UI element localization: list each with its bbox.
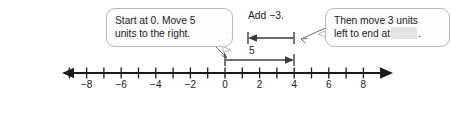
arrow-add-negative-three: [248, 32, 294, 44]
answer-blank-callout[interactable]: [391, 27, 417, 39]
number-line-worked-example: Start at 0. Move 5 units to the right. T…: [0, 0, 451, 133]
callout-end-instruction: Then move 3 units left to end at.: [325, 8, 450, 47]
callout-start-tail: [215, 46, 231, 58]
label-jump-length-five: 5: [249, 45, 255, 57]
axis-tick-label: 0: [222, 79, 228, 91]
axis-tick-label: −6: [115, 79, 126, 91]
callout-start-line1: Start at 0. Move 5: [115, 14, 225, 27]
arrow-move-right-five: [225, 54, 294, 66]
conclusion-row: So, 5 + (−3) =.: [0, 101, 451, 133]
callout-start-line2: units to the right.: [115, 27, 225, 40]
label-add-negative-three: Add −3.: [248, 10, 284, 22]
axis-tick-label: −4: [150, 79, 161, 91]
axis-tick-label: 6: [326, 79, 332, 91]
axis-tick-label: 2: [257, 79, 263, 91]
callout-end-suffix: .: [418, 28, 421, 39]
axis-tick-label: 4: [291, 79, 297, 91]
callout-end-prefix: left to end at: [334, 28, 390, 39]
axis-arrow-right: [381, 68, 393, 78]
axis-arrow-left: [62, 68, 74, 78]
callout-end-line1: Then move 3 units: [334, 14, 442, 27]
axis-tick-label: 8: [361, 79, 367, 91]
callout-start-instruction: Start at 0. Move 5 units to the right.: [106, 8, 233, 47]
number-line-axis: [62, 68, 393, 79]
axis-tick-label: −2: [185, 79, 196, 91]
axis-tick-label: −8: [81, 79, 92, 91]
callout-end-line2: left to end at.: [334, 27, 442, 40]
